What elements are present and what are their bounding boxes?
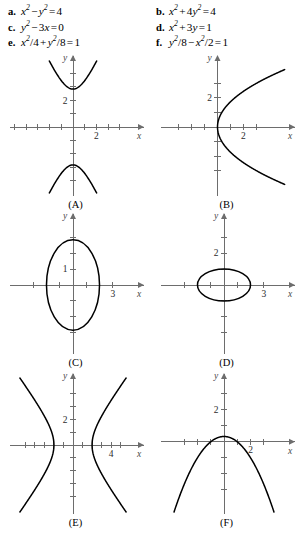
equation-tag: c. <box>8 20 21 36</box>
equation-tag: b. <box>156 4 169 20</box>
graph-panel-c: 31xy(C) <box>0 210 151 368</box>
panel-label-d: (D) <box>151 357 302 368</box>
graph-panel-d: 32xy(D) <box>151 210 302 368</box>
x-tick-label: 4 <box>108 449 113 459</box>
y-axis-label: y <box>212 371 218 381</box>
y-axis-label: y <box>61 371 67 381</box>
equation-tag: d. <box>156 20 169 36</box>
equation-expression: x2/4+y2/8=1 <box>21 36 80 48</box>
equation-item-b: b.x2+4y2=4 <box>156 4 228 20</box>
equation-expression: y2/8−x2/2=1 <box>169 36 228 48</box>
panel-label-f: (F) <box>151 517 302 528</box>
x-axis-label: x <box>135 289 141 299</box>
y-axis-label: y <box>61 53 67 63</box>
equation-tag: a. <box>8 4 21 20</box>
y-axis-label: y <box>212 211 218 221</box>
equation-tag: e. <box>8 35 21 51</box>
x-axis-label: x <box>286 289 292 299</box>
x-tick-label: 2 <box>241 131 246 141</box>
y-tick-label: 2 <box>62 415 67 425</box>
equation-list: a.x2−y2=4c.y2−3x=0e.x2/4+y2/8=1 b.x2+4y2… <box>0 0 302 52</box>
y-tick-label: 2 <box>207 93 212 103</box>
panel-label-a: (A) <box>0 199 151 210</box>
panel-label-c: (C) <box>0 357 151 368</box>
x-axis-label: x <box>135 131 141 141</box>
y-tick-label: 2 <box>213 405 218 415</box>
y-axis-label: y <box>206 53 212 63</box>
graph-panel-f: 22xy(F) <box>151 370 302 528</box>
equation-item-a: a.x2−y2=4 <box>8 4 80 20</box>
x-axis-label: x <box>135 449 141 459</box>
y-tick-label: 2 <box>213 248 218 258</box>
x-tick-label: 3 <box>261 289 266 299</box>
equation-item-c: c.y2−3x=0 <box>8 20 80 36</box>
x-tick-label: 3 <box>110 289 115 299</box>
equation-item-f: f.y2/8−x2/2=1 <box>156 35 228 51</box>
y-axis-label: y <box>61 211 67 221</box>
plot-e: 42xy <box>6 370 146 518</box>
equation-tag: f. <box>156 35 169 51</box>
plot-c: 31xy <box>6 210 146 358</box>
graph-panel-grid: 22xy(A)22xy(B)31xy(C)32xy(D)42xy(E)22xy(… <box>0 52 302 545</box>
equation-column-right: b.x2+4y2=4d.x2+3y=1f.y2/8−x2/2=1 <box>156 4 228 51</box>
graph-panel-a: 22xy(A) <box>0 52 151 210</box>
x-tick-label: 2 <box>94 131 99 141</box>
plot-f: 22xy <box>157 370 297 518</box>
plot-b: 22xy <box>157 52 297 200</box>
equation-expression: x2+3y=1 <box>169 21 212 33</box>
x-axis-label: x <box>286 446 292 456</box>
equation-expression: x2+4y2=4 <box>169 5 216 17</box>
equation-column-left: a.x2−y2=4c.y2−3x=0e.x2/4+y2/8=1 <box>8 4 80 51</box>
y-tick-label: 2 <box>62 96 67 106</box>
equation-item-e: e.x2/4+y2/8=1 <box>8 35 80 51</box>
panel-label-e: (E) <box>0 517 151 528</box>
equation-expression: x2−y2=4 <box>21 5 62 17</box>
y-tick-label: 1 <box>62 264 67 274</box>
x-axis-label: x <box>286 131 292 141</box>
plot-a: 22xy <box>6 52 146 200</box>
graph-panel-e: 42xy(E) <box>0 370 151 528</box>
equation-expression: y2−3x=0 <box>21 21 64 33</box>
equation-item-d: d.x2+3y=1 <box>156 20 228 36</box>
x-tick-label: 2 <box>248 445 253 455</box>
graph-panel-b: 22xy(B) <box>151 52 302 210</box>
panel-label-b: (B) <box>151 199 302 210</box>
plot-d: 32xy <box>157 210 297 358</box>
